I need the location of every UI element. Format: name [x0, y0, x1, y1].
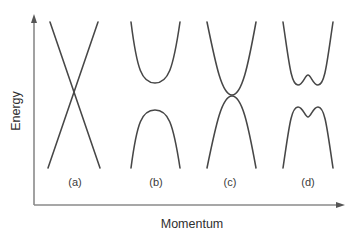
panel-label-b: (b): [149, 176, 162, 188]
band-structure-figure: (a) (b) (c) (d) Energy Momentum: [0, 0, 357, 234]
panel-label-a: (a): [68, 176, 81, 188]
panel-label-c: (c): [224, 176, 237, 188]
y-axis-label: Energy: [9, 90, 23, 130]
panel-label-d: (d): [301, 176, 314, 188]
figure-canvas: (a) (b) (c) (d) Energy Momentum: [0, 0, 357, 234]
x-axis-label: Momentum: [161, 217, 224, 231]
